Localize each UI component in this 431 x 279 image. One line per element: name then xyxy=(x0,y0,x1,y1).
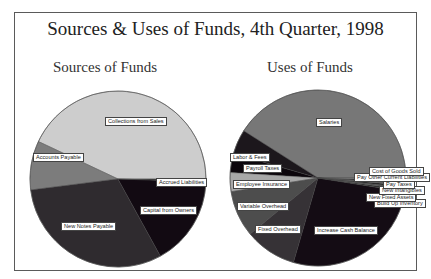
slice-label: Cost of Goods Sold xyxy=(369,167,424,176)
slice-label: Accounts Payable xyxy=(33,153,84,162)
slice-label: Accrued Liabilities xyxy=(156,178,207,187)
slice-label: Employee Insurance xyxy=(233,180,290,189)
slice-label: Fixed Overhead xyxy=(255,225,301,234)
pie-charts xyxy=(0,0,431,279)
slice-label: Variable Overhead xyxy=(237,202,289,211)
slice-label: Collections from Sales xyxy=(105,117,167,126)
slice-label: Payroll Taxes xyxy=(243,164,282,173)
slice-label: Capital from Owners xyxy=(140,206,197,215)
slice-label: Labor & Fees xyxy=(230,153,270,162)
slice-label: New Notes Payable xyxy=(61,222,116,231)
slice-label: Salaries xyxy=(316,118,342,127)
slice-label: Increase Cash Balance xyxy=(314,226,378,235)
